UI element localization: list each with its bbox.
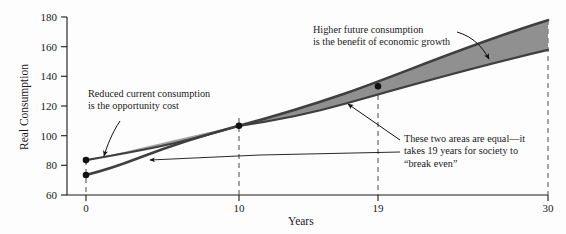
break-even-note-line2: takes 19 years for society to (404, 145, 525, 157)
opportunity-cost-note-line1: Reduced current consumption (88, 88, 210, 100)
y-tick-label-60: 60 (31, 189, 57, 201)
y-tick-label-80: 80 (31, 159, 57, 171)
x-tick-label-10: 10 (226, 202, 252, 214)
x-axis-title: Years (288, 215, 314, 227)
chart-canvas (0, 0, 566, 234)
y-tick-label-120: 120 (31, 100, 57, 112)
future-benefit-note-line1: Higher future consumption (313, 24, 450, 36)
x-tick-label-19: 19 (365, 202, 391, 214)
marker-year-0-high (83, 157, 90, 164)
y-tick-label-180: 180 (31, 11, 57, 23)
breakeven-leader-upper (348, 104, 400, 140)
y-axis-title: Real Consumption (18, 64, 30, 150)
future-benefit-note-line2: is the benefit of economic growth (313, 36, 450, 48)
break-even-note: These two areas are equal—it takes 19 ye… (404, 133, 525, 170)
y-axis-ticks (61, 17, 67, 195)
break-even-note-line3: “break even” (404, 158, 525, 170)
opportunity-cost-note: Reduced current consumption is the oppor… (88, 88, 210, 113)
marker-year-0-low (83, 172, 90, 179)
marker-year-19 (375, 83, 382, 90)
chart-figure: 180 160 140 120 100 80 60 0 10 19 30 Yea… (0, 0, 566, 234)
marker-crossover-year-10 (236, 123, 243, 130)
x-axis-ticks (86, 195, 548, 201)
x-tick-label-0: 0 (73, 202, 99, 214)
future-benefit-note: Higher future consumption is the benefit… (313, 24, 450, 49)
y-tick-label-140: 140 (31, 70, 57, 82)
breakeven-leader-lower (150, 152, 400, 160)
x-tick-label-30: 30 (535, 202, 561, 214)
y-tick-label-160: 160 (31, 41, 57, 53)
y-tick-label-100: 100 (31, 130, 57, 142)
opportunity-cost-note-line2: is the opportunity cost (88, 100, 210, 112)
opportunity-cost-leader (104, 121, 120, 156)
break-even-note-line1: These two areas are equal—it (404, 133, 525, 145)
